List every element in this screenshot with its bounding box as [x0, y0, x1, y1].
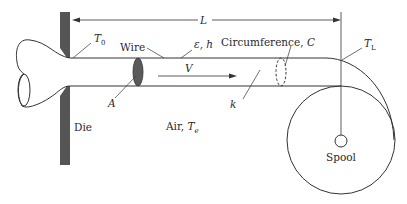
label-spool: Spool [326, 151, 357, 163]
label-end-temperature: TL [364, 37, 376, 52]
label-conductivity: k [230, 98, 236, 110]
label-velocity: V [185, 62, 194, 74]
label-area: A [107, 97, 116, 109]
label-emissivity-h: ε, h [194, 38, 213, 50]
die [60, 12, 70, 165]
velocity-arrow [158, 74, 237, 79]
label-air: Air, Te [165, 120, 199, 135]
label-wire: Wire [120, 41, 145, 53]
spool-axle [335, 135, 347, 147]
label-circumference: Circumference, C [221, 36, 315, 48]
label-die-temperature: T0 [94, 32, 105, 47]
wire-cooling-diagram: L T0 Wire ε, h Circumference, C TL V A k… [0, 0, 407, 204]
circumference-ellipse [276, 58, 286, 86]
cross-section-ellipse [133, 58, 143, 86]
label-length: L [199, 14, 207, 26]
label-die: Die [74, 121, 92, 133]
